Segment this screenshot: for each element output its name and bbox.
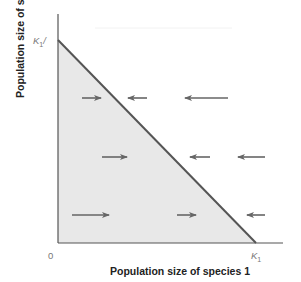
y-intercept-suffix: / bbox=[43, 35, 46, 46]
x-intercept-sub: 1 bbox=[257, 256, 261, 263]
origin-label: 0 bbox=[48, 250, 53, 261]
phase-plane-diagram: K1/ 0 K1 Population size of species 2 Po… bbox=[0, 0, 301, 282]
y-axis-label: Population size of species 2 bbox=[14, 0, 28, 128]
x-axis-label: Population size of species 1 bbox=[90, 265, 270, 277]
x-intercept-label: K1 bbox=[251, 250, 261, 263]
y-intercept-label: K1/ bbox=[33, 35, 46, 48]
